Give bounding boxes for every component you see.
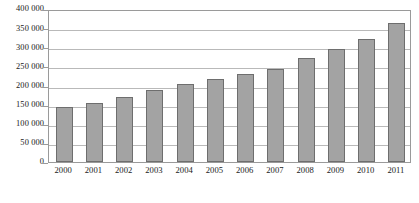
x-axis-tick-label: 2002 — [109, 166, 139, 175]
bars-group — [49, 11, 410, 162]
bar-2009 — [328, 49, 345, 162]
bar-2004 — [177, 84, 194, 162]
y-axis-tick-label: 250 000 — [0, 63, 44, 71]
y-axis-tick-label: 150 000 — [0, 101, 44, 109]
y-axis-tick-label: 0 — [0, 158, 44, 166]
x-axis-tick-label: 2004 — [169, 166, 199, 175]
x-axis-tick-label: 2007 — [260, 166, 290, 175]
y-axis-tick-label: 200 000 — [0, 82, 44, 90]
y-axis-tick-label: 100 000 — [0, 120, 44, 128]
x-axis-tick-label: 2011 — [381, 166, 411, 175]
y-axis-tick-label: 50 000 — [0, 139, 44, 147]
bar-2002 — [116, 97, 133, 162]
y-axis-tick-label: 350 000 — [0, 25, 44, 33]
bar-2005 — [207, 79, 224, 162]
y-axis-tick-label: 300 000 — [0, 44, 44, 52]
plot-area — [48, 10, 411, 163]
bar-2003 — [146, 90, 163, 162]
x-axis-tick-label: 2003 — [139, 166, 169, 175]
x-axis-tick-label: 2001 — [78, 166, 108, 175]
y-axis-tick-mark — [43, 163, 48, 164]
bar-2011 — [388, 23, 405, 162]
bar-2006 — [237, 74, 254, 162]
x-axis-tick-label: 2006 — [230, 166, 260, 175]
bar-2000 — [56, 107, 73, 162]
bar-2007 — [267, 69, 284, 162]
y-axis-tick-label: 400 000 — [0, 5, 44, 13]
x-axis-tick-label: 2008 — [290, 166, 320, 175]
x-axis-tick-label: 2005 — [199, 166, 229, 175]
x-axis-tick-label: 2000 — [48, 166, 78, 175]
bar-chart: 050 000100 000150 000200 000250 000300 0… — [0, 0, 419, 203]
x-axis-tick-label: 2009 — [320, 166, 350, 175]
bar-2001 — [86, 103, 103, 162]
bar-2008 — [298, 58, 315, 162]
bar-2010 — [358, 39, 375, 162]
x-axis-tick-label: 2010 — [351, 166, 381, 175]
x-axis: 2000200120022003200420052006200720082009… — [48, 166, 411, 186]
y-axis: 050 000100 000150 000200 000250 000300 0… — [0, 0, 44, 203]
